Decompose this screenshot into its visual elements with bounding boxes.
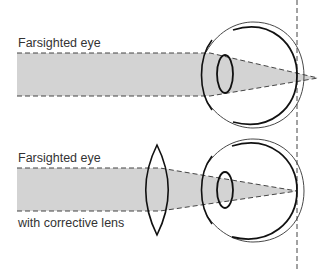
top-panel: Farsighted eye (17, 22, 318, 128)
bottom-label-top: Farsighted eye (18, 151, 101, 165)
bottom-panel: Farsighted eye with corrective lens (17, 139, 304, 242)
bottom-label-bottom: with corrective lens (17, 216, 124, 230)
light-beam (17, 53, 318, 96)
top-label: Farsighted eye (18, 36, 101, 50)
farsighted-eye-diagram: Farsighted eye Farsighted eye with corre… (0, 0, 331, 271)
light-beam (17, 168, 297, 211)
